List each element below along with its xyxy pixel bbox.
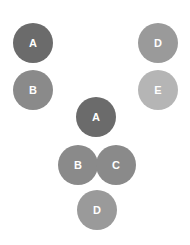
- node-label: A: [92, 111, 100, 123]
- node-right-e: E: [138, 70, 178, 110]
- node-right-d: D: [138, 23, 178, 63]
- node-label: A: [29, 37, 37, 49]
- node-label: C: [112, 159, 120, 171]
- node-label: B: [74, 159, 82, 171]
- node-center-d: D: [77, 190, 117, 230]
- node-center-c: C: [96, 145, 136, 185]
- node-center-b: B: [58, 145, 98, 185]
- node-label: E: [154, 84, 161, 96]
- node-label: B: [29, 84, 37, 96]
- node-label: D: [154, 37, 162, 49]
- node-left-a: A: [13, 23, 53, 63]
- node-left-b: B: [13, 70, 53, 110]
- node-label: D: [93, 204, 101, 216]
- node-center-a: A: [76, 97, 116, 137]
